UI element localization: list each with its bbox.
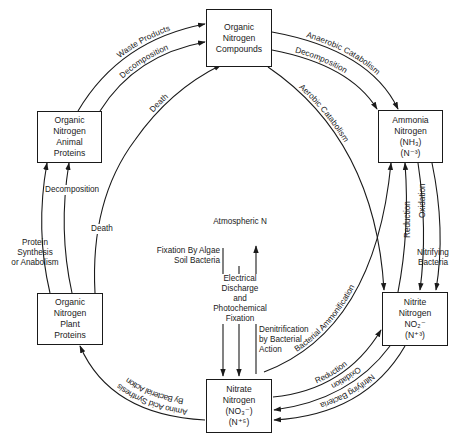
node-text: Ammonia	[392, 115, 428, 126]
node-organic-nitrogen-compounds: Organic Nitrogen Compounds	[206, 9, 272, 67]
label-decomposition-left: Decomposition	[45, 185, 99, 195]
label-line: Fixation	[204, 314, 276, 324]
node-text: Nitrogen	[399, 308, 431, 319]
label-nitrifying-right: Nitrifying Bacteria	[408, 248, 458, 268]
label-denitrification: Denitrification by Bacterial Action	[259, 325, 309, 355]
node-text: Organic	[224, 22, 254, 33]
label-line: Soil Bacteria	[140, 256, 220, 266]
label-protein-synthesis: Protein Synthesis or Anabolism	[4, 238, 66, 268]
node-text: Organic	[54, 115, 84, 126]
label-line: Photochemical	[204, 304, 276, 314]
svg-text:Aerobic Catabolism: Aerobic Catabolism	[297, 82, 350, 143]
label-electrical-discharge: Electrical Discharge and Photochemical F…	[204, 274, 276, 324]
edge-oxidation-right	[418, 163, 424, 290]
node-text: Compounds	[216, 44, 262, 55]
label-line: Electrical	[204, 274, 276, 284]
label-reduction-right: Reduction	[403, 201, 412, 238]
edge-protein-synthesis	[42, 163, 50, 293]
node-text: (NH₃)	[400, 137, 422, 148]
label-death-lower: Death	[91, 224, 113, 234]
label-line: Nitrifying	[408, 248, 458, 258]
edge-nitrifying-right	[432, 163, 440, 290]
label-line: Denitrification	[259, 325, 309, 335]
label-line: Bacteria	[408, 258, 458, 268]
node-text: Animal	[56, 137, 82, 148]
node-text: NO₂⁻	[404, 319, 425, 330]
label-atmospheric-n: Atmospheric N	[205, 217, 275, 227]
node-text: (N⁻³)	[401, 148, 421, 159]
label-line: Synthesis	[4, 248, 66, 258]
node-text: Plant	[60, 319, 80, 330]
node-text: Nitrogen	[53, 126, 85, 137]
label-line: or Anabolism	[4, 258, 66, 268]
label-oxidation-right: Oxidation	[418, 183, 427, 218]
node-plant-proteins: Organic Nitrogen Plant Proteins	[37, 293, 103, 345]
node-text: Organic	[55, 297, 85, 308]
label-line: Fixation By Algae	[140, 246, 220, 256]
node-text: Proteins	[54, 148, 86, 159]
label-line: Discharge	[204, 284, 276, 294]
label-aerobic-catabolism: Aerobic Catabolism	[297, 82, 350, 143]
label-line: by Bacterial	[259, 335, 309, 345]
node-text: Nitrogen	[54, 308, 86, 319]
node-ammonia-nitrogen: Ammonia Nitrogen (NH₃) (N⁻³)	[378, 110, 443, 163]
node-text: Proteins	[54, 330, 86, 341]
label-line: Protein	[4, 238, 66, 248]
node-text: (N⁺³)	[405, 330, 425, 341]
edge-aerobic-catabolism	[268, 67, 384, 290]
node-nitrite-nitrogen: Nitrite Nitrogen NO₂⁻ (N⁺³)	[382, 292, 448, 346]
node-text: Nitrate	[226, 384, 251, 395]
node-text: Nitrogen	[394, 126, 426, 137]
node-text: Nitrogen	[223, 395, 255, 406]
edge-decomposition-left	[64, 163, 72, 293]
node-text: Nitrite	[404, 297, 426, 308]
node-text: (N⁺⁵)	[229, 417, 250, 428]
label-line: and	[204, 294, 276, 304]
node-nitrate-nitrogen: Nitrate Nitrogen (NO₃⁻) (N⁺⁵)	[206, 379, 272, 433]
label-fixation-algae: Fixation By Algae Soil Bacteria	[140, 246, 220, 266]
label-line: Action	[259, 345, 309, 355]
node-animal-proteins: Organic Nitrogen Animal Proteins	[37, 111, 102, 163]
node-text: (NO₃⁻)	[225, 406, 252, 417]
node-text: Nitrogen	[223, 33, 255, 44]
